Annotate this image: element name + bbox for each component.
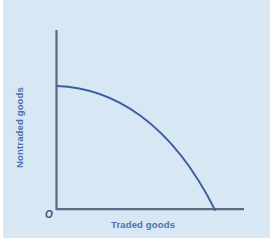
figure-panel: Nontraded goods Traded goods O bbox=[3, 0, 270, 238]
y-axis-label: Nontraded goods bbox=[14, 87, 25, 168]
ppf-plot bbox=[3, 0, 270, 238]
figure-screenshot: Nontraded goods Traded goods O bbox=[0, 0, 279, 245]
origin-label: O bbox=[45, 209, 53, 220]
ppf-curve bbox=[57, 86, 215, 210]
x-axis-label: Traded goods bbox=[111, 219, 175, 230]
